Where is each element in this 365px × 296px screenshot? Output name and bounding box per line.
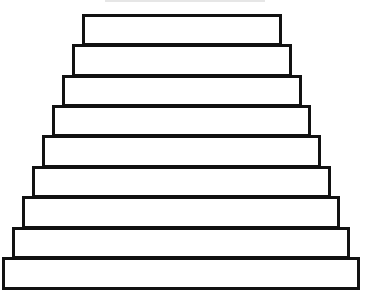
pyramid-tier-7	[22, 196, 340, 229]
pyramid-tier-9	[2, 257, 360, 290]
stepped-pyramid-diagram	[0, 0, 365, 296]
pyramid-tier-8	[12, 227, 350, 259]
pyramid-tier-3	[62, 75, 302, 107]
pyramid-tier-2	[72, 44, 292, 77]
cropped-caption-remnant	[105, 0, 265, 2]
pyramid-tier-6	[32, 166, 331, 198]
pyramid-tier-4	[52, 105, 311, 137]
pyramid-tier-1	[82, 14, 282, 46]
pyramid-tier-5	[42, 135, 321, 168]
